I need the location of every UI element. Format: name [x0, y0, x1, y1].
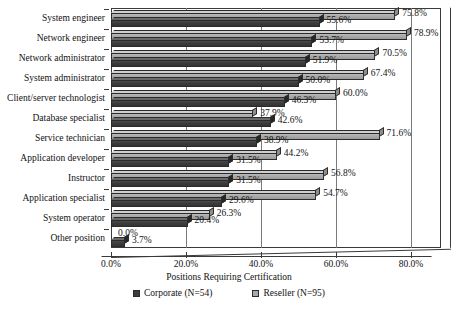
category-tick [104, 29, 109, 30]
category-label: System administrator [24, 73, 105, 83]
bar-corporate[interactable] [111, 160, 229, 167]
legend-label-corporate: Corporate (N=54) [144, 288, 212, 298]
bar-corporate[interactable] [111, 180, 229, 187]
bar-value-label: 31.5% [236, 156, 261, 166]
x-tick-label: 80.0% [399, 259, 424, 269]
category-tick [104, 109, 109, 110]
bar-corporate[interactable] [111, 200, 222, 207]
x-tick-label: 60.0% [324, 259, 349, 269]
bar-end-cap [319, 14, 324, 24]
bar-body [111, 180, 229, 187]
bar-top-face [111, 197, 225, 200]
bar-body [111, 40, 312, 47]
bar-end-cap [335, 86, 340, 96]
category-axis: System engineerNetwork engineerNetwork a… [0, 8, 109, 248]
bar-body [111, 100, 285, 107]
bar-top-face [111, 217, 191, 220]
legend-item-corporate[interactable]: Corporate (N=54) [133, 288, 212, 298]
bar-corporate[interactable] [111, 240, 125, 247]
bar-corporate[interactable] [111, 120, 271, 127]
bar-corporate[interactable] [111, 100, 285, 107]
x-tick-80 [411, 252, 412, 258]
bar-end-cap [394, 6, 399, 16]
bar-corporate[interactable] [111, 20, 320, 27]
plot-area: 75.8%55.6%78.9%53.7%70.5%51.9%67.4%50.0%… [111, 8, 441, 248]
bar-value-label: 53.7% [319, 36, 344, 46]
x-tick-60 [336, 252, 337, 258]
bar-top-face [111, 137, 260, 140]
plot-frame-depth-right [441, 8, 451, 248]
bar-top-face [111, 90, 339, 93]
bar-value-label: 50.0% [306, 76, 331, 86]
bar-value-label: 71.6% [387, 129, 412, 139]
bar-top-face [111, 150, 280, 153]
chart-legend: Corporate (N=54) Reseller (N=95) [0, 288, 458, 298]
bar-top-face [111, 10, 399, 13]
x-tick-label: 20.0% [174, 259, 199, 269]
bar-body [111, 120, 271, 127]
bar-body [111, 140, 257, 147]
bar-body [111, 60, 306, 67]
bar-corporate[interactable] [111, 40, 312, 47]
bar-top-face [111, 177, 232, 180]
bar-end-cap [379, 126, 384, 136]
bar-top-face [111, 157, 232, 160]
bar-value-label: 55.6% [327, 16, 352, 26]
bar-value-label: 75.8% [402, 9, 427, 19]
category-label: Client/server technologist [7, 93, 105, 103]
x-tick-40 [261, 252, 262, 258]
category-tick [104, 69, 109, 70]
bar-rows: 75.8%55.6%78.9%53.7%70.5%51.9%67.4%50.0%… [111, 8, 441, 248]
bar-end-cap [315, 186, 320, 196]
bar-value-label: 38.9% [264, 136, 289, 146]
bar-corporate[interactable] [111, 80, 299, 87]
bar-end-cap [252, 106, 257, 116]
bar-value-label: 54.7% [323, 189, 348, 199]
category-tick [104, 129, 109, 130]
category-tick [104, 49, 109, 50]
bar-body [111, 20, 320, 27]
bar-top-face [111, 110, 256, 113]
bar-value-label: 46.3% [292, 96, 317, 106]
category-label: Instructor [68, 173, 105, 183]
category-tick [104, 189, 109, 190]
bar-corporate[interactable] [111, 220, 188, 227]
category-tick [104, 229, 109, 230]
bar-value-label: 26.3% [217, 209, 242, 219]
bar-value-label: 20.4% [195, 216, 220, 226]
category-label: Database specialist [32, 113, 105, 123]
bar-top-face [111, 57, 309, 60]
bar-value-label: 60.0% [343, 89, 368, 99]
bar-end-cap [298, 74, 303, 84]
bar-value-label: 70.5% [382, 49, 407, 59]
bar-top-face [111, 117, 274, 120]
bar-value-label: 78.9% [414, 29, 439, 39]
legend-swatch-corporate-icon [133, 290, 140, 297]
bar-end-cap [187, 214, 192, 224]
category-label: Application developer [20, 153, 105, 163]
category-tick [104, 209, 109, 210]
bar-top-face [111, 170, 327, 173]
bar-end-cap [124, 234, 129, 244]
bar-corporate[interactable] [111, 140, 257, 147]
bar-top-face [111, 190, 319, 193]
category-tick [104, 89, 109, 90]
x-axis-title: Positions Requiring Certification [0, 272, 458, 282]
category-label: System engineer [42, 13, 105, 23]
bar-top-face [111, 50, 379, 53]
bar-value-label: 31.5% [236, 176, 261, 186]
legend-item-reseller[interactable]: Reseller (N=95) [252, 288, 325, 298]
bar-end-cap [228, 154, 233, 164]
bar-top-face [111, 97, 288, 100]
bar-end-cap [406, 26, 411, 36]
bar-value-label: 29.6% [229, 196, 254, 206]
bar-top-face [111, 210, 213, 213]
bar-end-cap [256, 134, 261, 144]
bar-body [111, 80, 299, 87]
bar-corporate[interactable] [111, 60, 306, 67]
bar-body [111, 240, 125, 247]
bar-value-label: 67.4% [371, 69, 396, 79]
bar-top-face [111, 30, 410, 33]
bar-end-cap [276, 146, 281, 156]
x-tick-label: 0.0% [101, 259, 121, 269]
